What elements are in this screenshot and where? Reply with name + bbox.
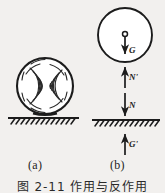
panel-a-group <box>8 58 79 124</box>
weight-vector-label: G <box>129 45 136 55</box>
figure-illustration: G N' N <box>0 0 165 193</box>
ground-hatching-a <box>11 119 75 125</box>
figure-title: 图 2-11 作用与反作用 <box>0 180 165 193</box>
center-of-mass-point <box>123 32 128 37</box>
panel-b-group: G N' N <box>92 8 160 155</box>
normal-force-label: N <box>128 100 136 110</box>
panel-caption-b: (b) <box>110 158 125 173</box>
ball-outline <box>17 58 73 114</box>
textbook-figure: G N' N <box>0 0 165 193</box>
normal-reaction-label: N' <box>128 72 138 82</box>
earth-reaction-label: G' <box>129 139 138 149</box>
ground-hatching-b <box>95 121 159 127</box>
panel-caption-a: (a) <box>28 158 42 173</box>
